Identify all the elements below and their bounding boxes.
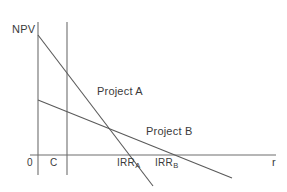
project-b-label: Project B bbox=[146, 126, 192, 137]
origin-label: 0 bbox=[27, 158, 33, 168]
y-axis-label: NPV bbox=[12, 24, 35, 35]
irr-b-base: IRR bbox=[155, 157, 173, 168]
irr-b-label: IRRB bbox=[155, 158, 178, 168]
chart-plot-area bbox=[0, 0, 287, 192]
x-axis-label: r bbox=[272, 157, 276, 168]
irr-a-label: IRRA bbox=[117, 158, 140, 168]
irr-a-subscript: A bbox=[135, 161, 140, 170]
cost-of-capital-label: C bbox=[50, 158, 57, 168]
project-a-label: Project A bbox=[97, 86, 143, 97]
npv-profile-chart: NPV r 0 C Project A Project B IRRA IRRB bbox=[0, 0, 287, 192]
irr-a-base: IRR bbox=[117, 157, 135, 168]
irr-b-subscript: B bbox=[173, 161, 178, 170]
